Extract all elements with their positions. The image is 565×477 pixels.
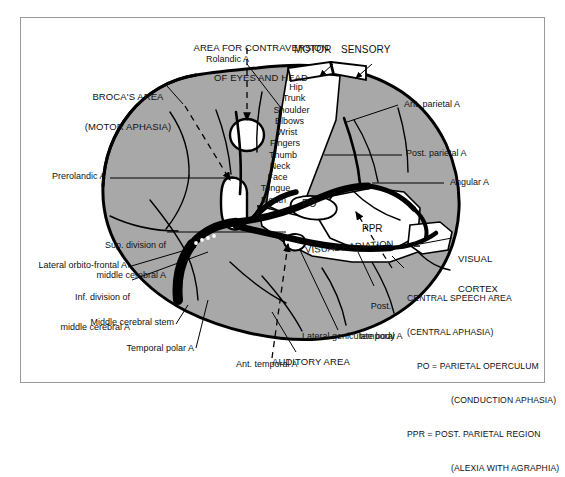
homunculus-item: Face — [235, 172, 320, 183]
brocas-line-2: (MOTOR APHASIA) — [74, 122, 182, 132]
inf-division-mca-label: Inf. division of middle cerebral A — [26, 274, 130, 352]
homunculus-item: Wrist — [254, 127, 320, 138]
legend-line-5: PPR = POST. PARIETAL REGION — [407, 429, 549, 440]
ant-parietal-artery-label: Ant. parietal A — [404, 100, 460, 110]
homunculus-item: Fingers — [250, 138, 320, 149]
homunculus-list: HipTrunkShoulderElbowsWristFingersThumbN… — [246, 82, 320, 206]
lateral-orbito-frontal-label: Lateral orbito-frontal A — [16, 261, 127, 271]
sensory-label: SENSORY — [341, 45, 390, 56]
legend-line-3: PO = PARIETAL OPERCULUM — [407, 361, 549, 372]
homunculus-item: Neck — [240, 161, 320, 172]
motor-label: MOTOR — [294, 45, 332, 56]
legend-block: CENTRAL SPEECH AREA (CENTRAL APHASIA) PO… — [407, 270, 549, 477]
legend-line-1: CENTRAL SPEECH AREA — [407, 293, 549, 304]
rolandic-artery-label: Rolandic A — [206, 55, 249, 65]
visual-cortex-line-1: VISUAL — [458, 254, 518, 264]
legend-line-6: (ALEXIA WITH AGRAPHIA) — [407, 463, 549, 474]
sup-division-line-1: Sup. division of — [38, 241, 166, 251]
middle-cerebral-stem-label: Middle cerebral stem — [58, 318, 174, 328]
post-parietal-artery-label: Post. parietal A — [406, 149, 467, 159]
angular-artery-label: Angular A — [450, 178, 489, 188]
homunculus-item: Hip — [272, 82, 320, 93]
homunculus-item: Tongue — [231, 183, 320, 194]
homunculus-item: Trunk — [268, 93, 320, 104]
brocas-area-label: BROCA'S AREA (MOTOR APHASIA) — [74, 71, 182, 153]
post-temporal-artery-label: Post. temporal A — [354, 283, 408, 361]
prerolandic-artery-label: Prerolandic A — [52, 172, 106, 182]
legend-line-2: (CENTRAL APHASIA) — [407, 327, 549, 338]
po-label: PO — [302, 199, 316, 210]
post-temporal-line-1: Post. — [354, 302, 408, 312]
legend-line-4: (CONDUCTION APHASIA) — [407, 395, 549, 406]
homunculus-item: Thumb — [246, 150, 320, 161]
homunculus-item: Shoulder — [263, 105, 320, 116]
temporal-polar-artery-label: Temporal polar A — [104, 344, 194, 354]
brocas-line-1: BROCA'S AREA — [74, 92, 182, 102]
auditory-area-label: AUDITORY AREA — [272, 357, 350, 367]
lateral-geniculate-body-label: Lateral geniculate body — [302, 332, 395, 342]
homunculus-item: Elbows — [259, 116, 320, 127]
ppr-label: PPR — [362, 224, 383, 235]
inf-division-line-1: Inf. division of — [26, 293, 130, 303]
